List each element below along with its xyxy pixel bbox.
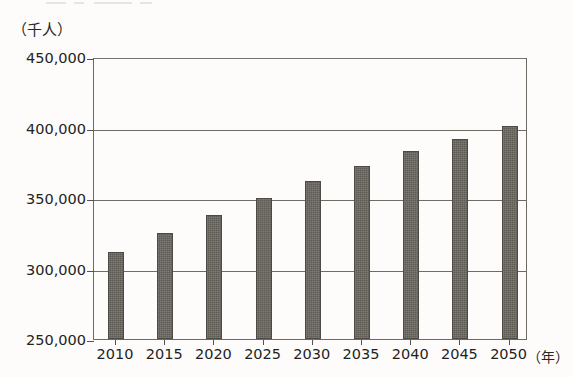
x-tick-label: 2040: [392, 346, 429, 362]
plot-area: [93, 58, 527, 340]
x-tick-mark: [263, 340, 264, 345]
y-tick-label: 400,000: [26, 121, 86, 137]
x-tick-label: 2015: [146, 346, 183, 362]
x-tick-mark: [361, 340, 362, 345]
bar-2045: [452, 139, 468, 339]
bar-2020: [206, 215, 222, 339]
y-tick-label: 300,000: [26, 262, 86, 278]
x-tick-mark: [312, 340, 313, 345]
y-tick-label: 450,000: [26, 50, 86, 66]
y-tick-mark: [87, 130, 94, 131]
x-tick-mark: [509, 340, 510, 345]
x-tick-label: 2025: [244, 346, 281, 362]
bar-2030: [305, 181, 321, 339]
y-tick-mark: [87, 59, 94, 60]
x-tick-label: 2050: [490, 346, 527, 362]
x-tick-label: 2035: [343, 346, 380, 362]
x-tick-label: 2030: [293, 346, 330, 362]
x-tick-mark: [459, 340, 460, 345]
bar-2035: [354, 166, 370, 339]
bar-2050: [502, 126, 518, 339]
x-tick-label: 2020: [195, 346, 232, 362]
x-axis-labels: 201020152020202520302035204020452050: [0, 346, 573, 370]
x-tick-mark: [164, 340, 165, 345]
bar-2015: [157, 233, 173, 339]
x-tick-mark: [115, 340, 116, 345]
y-tick-label: 350,000: [26, 191, 86, 207]
x-axis-unit-label: （年）: [527, 346, 569, 366]
bar-2040: [403, 151, 419, 339]
y-tick-mark: [87, 271, 94, 272]
y-tick-mark: [87, 341, 94, 342]
bar-2025: [256, 198, 272, 339]
x-tick-mark: [213, 340, 214, 345]
y-axis-labels: 450,000400,000350,000300,000250,000: [0, 0, 86, 377]
gridline: [94, 130, 526, 131]
x-tick-label: 2010: [97, 346, 134, 362]
y-tick-mark: [87, 200, 94, 201]
bar-2010: [108, 252, 124, 339]
x-tick-mark: [410, 340, 411, 345]
x-tick-label: 2045: [441, 346, 478, 362]
